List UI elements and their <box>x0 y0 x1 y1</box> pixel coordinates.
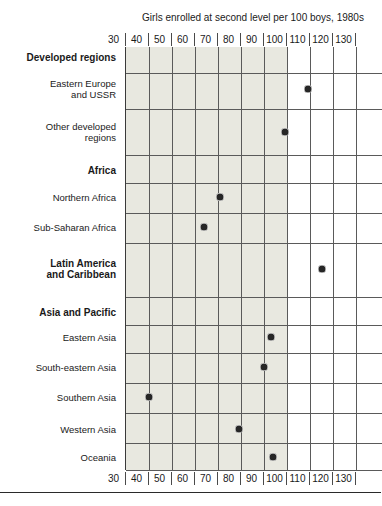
x-tick-label: 80 <box>217 472 240 485</box>
x-tick-label: 110 <box>286 33 309 46</box>
category-label: Asia and Pacific <box>0 307 116 318</box>
category-label: Southern Asia <box>0 392 116 403</box>
category-label-line: Africa <box>0 165 116 176</box>
category-label: Developed regions <box>0 52 116 63</box>
x-tick-label: 130 <box>332 472 355 485</box>
x-tick-label: 90 <box>240 472 263 485</box>
x-tick-label: 70 <box>194 472 217 485</box>
plot-area <box>125 47 381 470</box>
gridline-horizontal <box>126 155 382 156</box>
x-axis-top: 30405060708090100110120130 <box>0 33 381 46</box>
gridline-horizontal <box>126 353 382 354</box>
category-label: Northern Africa <box>0 192 116 203</box>
category-label-line: Latin America <box>0 258 116 269</box>
gridline-vertical <box>149 47 150 470</box>
data-point <box>318 265 326 273</box>
category-label-line: Oceania <box>0 452 116 463</box>
category-label-line: Northern Africa <box>0 192 116 203</box>
x-tick-label: 90 <box>240 33 263 46</box>
data-point <box>235 425 243 433</box>
gridline-vertical <box>172 47 173 470</box>
chart-title: Girls enrolled at second level per 100 b… <box>125 12 381 24</box>
x-tick-label: 50 <box>148 33 171 46</box>
bottom-divider <box>0 492 381 493</box>
x-tick-mark <box>355 472 356 485</box>
category-label: Oceania <box>0 452 116 463</box>
gridline-vertical <box>333 47 334 470</box>
category-label: Sub-Saharan Africa <box>0 222 116 233</box>
x-tick-label: 40 <box>125 472 148 485</box>
category-label-line: Asia and Pacific <box>0 307 116 318</box>
gridline-horizontal <box>126 183 382 184</box>
category-label-line: Sub-Saharan Africa <box>0 222 116 233</box>
gridline-horizontal <box>126 243 382 244</box>
gridline-horizontal <box>126 73 382 74</box>
gridline-horizontal <box>126 297 382 298</box>
x-tick-label: 40 <box>125 33 148 46</box>
x-tick-label: 120 <box>309 33 332 46</box>
category-label-line: Eastern Asia <box>0 332 116 343</box>
gridline-horizontal <box>126 413 382 414</box>
category-label: Eastern Asia <box>0 332 116 343</box>
gridline-horizontal <box>126 383 382 384</box>
category-label-line: Western Asia <box>0 424 116 435</box>
gridline-horizontal <box>126 470 382 471</box>
category-label: Other developedregions <box>0 121 116 143</box>
x-tick-label: 30 <box>102 33 125 46</box>
category-label-line: Developed regions <box>0 52 116 63</box>
gridline-horizontal <box>126 109 382 110</box>
clipped-top-text <box>22 0 322 5</box>
data-point <box>145 393 153 401</box>
category-label-line: Eastern Europe <box>0 78 116 89</box>
category-label: Latin Americaand Caribbean <box>0 258 116 280</box>
shaded-band <box>126 47 287 470</box>
category-label-line: Other developed <box>0 121 116 132</box>
category-label: Eastern Europeand USSR <box>0 78 116 100</box>
x-axis-bottom: 30405060708090100110120130 <box>0 472 381 485</box>
x-tick-label: 60 <box>171 33 194 46</box>
category-label-line: Southern Asia <box>0 392 116 403</box>
category-label-column: Developed regionsEastern Europeand USSRO… <box>0 47 121 470</box>
x-tick-label: 60 <box>171 472 194 485</box>
data-point <box>281 128 289 136</box>
x-tick-label: 130 <box>332 33 355 46</box>
gridline-vertical <box>287 47 288 470</box>
category-label: Western Asia <box>0 424 116 435</box>
x-tick-label: 110 <box>286 472 309 485</box>
category-label: Africa <box>0 165 116 176</box>
gridline-vertical <box>195 47 196 470</box>
gridline-vertical <box>241 47 242 470</box>
x-tick-label: 120 <box>309 472 332 485</box>
gridline-horizontal <box>126 213 382 214</box>
data-point <box>304 85 312 93</box>
gridline-vertical <box>264 47 265 470</box>
category-label-line: regions <box>0 132 116 143</box>
gridline-vertical <box>218 47 219 470</box>
x-tick-label: 30 <box>102 472 125 485</box>
x-tick-label: 50 <box>148 472 171 485</box>
x-tick-label: 80 <box>217 33 240 46</box>
x-tick-label: 100 <box>263 33 286 46</box>
gridline-vertical <box>356 47 357 470</box>
data-point <box>267 333 275 341</box>
x-tick-label: 100 <box>263 472 286 485</box>
gridline-horizontal <box>126 325 382 326</box>
gridline-vertical <box>310 47 311 470</box>
category-label-line: South-eastern Asia <box>0 362 116 373</box>
category-label: South-eastern Asia <box>0 362 116 373</box>
category-label-line: and USSR <box>0 89 116 100</box>
x-tick-mark <box>355 33 356 46</box>
data-point <box>260 363 268 371</box>
category-label-line: and Caribbean <box>0 269 116 280</box>
gridline-horizontal <box>126 443 382 444</box>
x-tick-label: 70 <box>194 33 217 46</box>
